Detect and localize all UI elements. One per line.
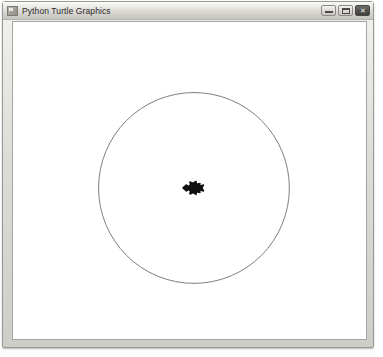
minimize-icon xyxy=(325,11,333,13)
window-titlebar[interactable]: Python Turtle Graphics ✕ xyxy=(3,2,373,20)
window-buttons: ✕ xyxy=(321,5,370,16)
turtle-canvas-frame[interactable] xyxy=(12,21,367,340)
window-title: Python Turtle Graphics xyxy=(22,6,111,16)
maximize-button[interactable] xyxy=(338,5,353,16)
minimize-button[interactable] xyxy=(321,5,336,16)
close-icon: ✕ xyxy=(356,6,369,15)
turtle-drawing-canvas[interactable] xyxy=(13,22,366,339)
maximize-icon xyxy=(342,8,350,14)
turtle-graphics-window[interactable]: Python Turtle Graphics ✕ xyxy=(2,1,374,348)
close-button[interactable]: ✕ xyxy=(355,5,370,16)
canvas-background xyxy=(13,22,366,339)
turtle-app-icon xyxy=(7,6,18,16)
